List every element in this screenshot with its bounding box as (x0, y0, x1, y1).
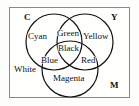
venn-diagram-figure: C Y M Cyan Green Yellow Black Blue Red M… (0, 0, 139, 106)
set-letter-yellow: Y (111, 13, 118, 22)
region-label-black: Black (58, 44, 79, 53)
region-label-cyan: Cyan (28, 32, 47, 41)
set-letter-cyan: C (24, 13, 31, 22)
set-letter-magenta: M (110, 81, 119, 90)
venn-circles (0, 0, 139, 106)
region-label-green: Green (57, 29, 79, 38)
region-label-white: White (14, 65, 36, 74)
region-label-red: Red (81, 56, 96, 65)
region-label-magenta: Magenta (53, 74, 85, 83)
region-label-yellow: Yellow (83, 32, 109, 41)
region-label-blue: Blue (41, 56, 58, 65)
